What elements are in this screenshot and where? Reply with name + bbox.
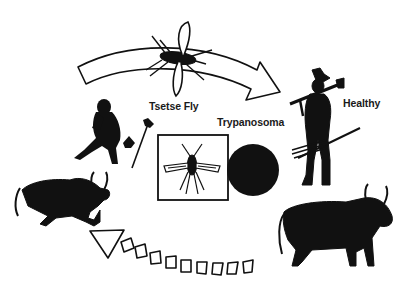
sick-cow-icon [16, 172, 110, 226]
healthy-label: Healthy [343, 97, 380, 109]
transmission-cycle-diagram: Tsetse Fly Trypanosoma Healthy [0, 0, 404, 299]
tsetse-fly-label: Tsetse Fly [149, 100, 199, 112]
healthy-man-icon [290, 68, 360, 185]
sick-person-icon [74, 99, 154, 168]
diagram-artwork [0, 0, 404, 299]
trypanosoma-label: Trypanosoma [217, 116, 284, 128]
bottom-segmented-arrow [90, 230, 253, 275]
trypanosoma-disc-icon [227, 144, 279, 196]
healthy-cow-icon [279, 184, 392, 266]
tsetse-fly-box [158, 135, 228, 200]
